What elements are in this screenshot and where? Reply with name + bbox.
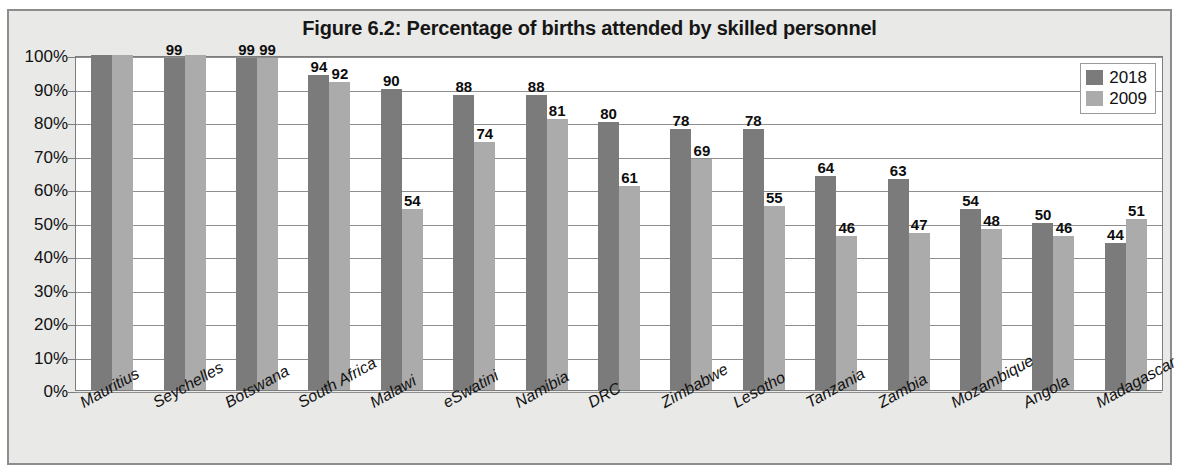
bar-value-label: 44 [1107, 227, 1124, 242]
bar-2018[interactable]: 99 [164, 58, 185, 390]
bar-value-label: 99 [238, 42, 255, 57]
bar-value-label: 48 [983, 213, 1000, 228]
bar-group: 7855 [728, 57, 800, 390]
y-axis-tick [68, 258, 76, 259]
bar-2018[interactable]: 64 [815, 176, 836, 390]
bar-slot: 94 [308, 57, 329, 390]
legend-item-2018: 2018 [1086, 67, 1147, 88]
x-axis-label-cell: Namibia [510, 392, 583, 472]
y-axis-tick-label: 80% [8, 114, 68, 134]
bar-2009[interactable]: 69 [691, 159, 712, 390]
page-title: Figure 6.2: Percentage of births attende… [9, 17, 1170, 40]
x-axis-label-cell: eSwatini [438, 392, 511, 472]
bar-2009[interactable]: 81 [547, 119, 568, 390]
bar-2018[interactable]: 99 [236, 58, 257, 390]
bar-slot: 47 [909, 57, 930, 390]
bar-slot: 50 [1032, 57, 1053, 390]
x-axis-label-cell: Madagascar [1090, 392, 1163, 472]
figure-container: Figure 6.2: Percentage of births attende… [0, 0, 1181, 472]
y-axis-tick [68, 124, 76, 125]
bar-group: 9054 [366, 57, 438, 390]
y-axis-tick [68, 325, 76, 326]
bar-2018[interactable]: 63 [888, 179, 909, 390]
bar-2018[interactable]: 80 [598, 122, 619, 390]
bar-2009[interactable]: 99 [257, 58, 278, 390]
y-axis-tick-label: 40% [8, 248, 68, 268]
bar-value-label: 46 [838, 220, 855, 235]
legend-label-2018: 2018 [1109, 69, 1147, 86]
y-axis-tick [68, 191, 76, 192]
bar-2009[interactable]: 54 [402, 209, 423, 390]
bar-2009[interactable]: 51 [1126, 219, 1147, 390]
x-axis-label-cell: DRC [583, 392, 656, 472]
bar-2009[interactable]: 55 [764, 206, 785, 390]
plot-wrapper: 0%10%20%30%40%50%60%70%80%90%100% 999999… [75, 56, 1163, 391]
legend-swatch-2009-icon [1086, 91, 1103, 106]
bar-slot: 54 [960, 57, 981, 390]
y-axis-tick-label: 10% [8, 349, 68, 369]
y-axis-tick [68, 158, 76, 159]
bar-2018[interactable] [91, 55, 112, 390]
bar-value-label: 92 [332, 66, 349, 81]
legend-label-2009: 2009 [1109, 90, 1147, 107]
bar-slot: 69 [691, 57, 712, 390]
bar-value-label: 51 [1128, 203, 1145, 218]
bar-group: 7869 [655, 57, 727, 390]
x-axis-label-cell: Mauritius [75, 392, 148, 472]
bar-value-label: 50 [1035, 207, 1052, 222]
bar-value-label: 81 [549, 103, 566, 118]
bar-2018[interactable]: 54 [960, 209, 981, 390]
bar-group: 5448 [945, 57, 1017, 390]
bar-2009[interactable]: 61 [619, 186, 640, 390]
y-axis-tick [68, 359, 76, 360]
y-axis-tick [68, 91, 76, 92]
bar-value-label: 55 [766, 190, 783, 205]
bar-2018[interactable]: 88 [526, 95, 547, 390]
bar-slot: 46 [836, 57, 857, 390]
x-axis-label-cell: Mozambique [945, 392, 1018, 472]
x-axis-label-cell: South Africa [293, 392, 366, 472]
bar-2009[interactable] [185, 55, 206, 390]
bar-2018[interactable]: 78 [743, 129, 764, 390]
y-axis-tick-label: 60% [8, 181, 68, 201]
x-axis-label-cell: Seychelles [148, 392, 221, 472]
bar-slot: 74 [474, 57, 495, 390]
bar-group: 6347 [872, 57, 944, 390]
bar-value-label: 54 [404, 193, 421, 208]
bar-2009[interactable]: 74 [474, 142, 495, 390]
bar-value-label: 99 [259, 42, 276, 57]
bar-slot: 54 [402, 57, 423, 390]
x-axis-label-cell: Botswana [220, 392, 293, 472]
bar-group [76, 57, 148, 390]
bar-slot: 99 [257, 57, 278, 390]
bar-2009[interactable]: 48 [981, 229, 1002, 390]
chart-panel: Figure 6.2: Percentage of births attende… [7, 9, 1172, 465]
bar-value-label: 99 [166, 42, 183, 57]
y-axis-tick-label: 100% [8, 47, 68, 67]
bar-2018[interactable]: 90 [381, 89, 402, 391]
bar-2009[interactable] [112, 55, 133, 390]
bar-value-label: 94 [311, 59, 328, 74]
bar-value-label: 54 [962, 193, 979, 208]
chart-legend: 2018 2009 [1080, 63, 1156, 114]
plot-area: 0%10%20%30%40%50%60%70%80%90%100% 999999… [75, 56, 1163, 391]
bar-2009[interactable]: 92 [329, 82, 350, 390]
bar-group: 8061 [583, 57, 655, 390]
y-axis-tick [68, 225, 76, 226]
y-axis-tick-label: 70% [8, 148, 68, 168]
bar-slot: 80 [598, 57, 619, 390]
bar-2018[interactable]: 78 [670, 129, 691, 390]
bar-slot [91, 57, 112, 390]
bar-value-label: 78 [745, 113, 762, 128]
bar-2009[interactable]: 46 [1053, 236, 1074, 390]
x-axis-label-cell: Tanzania [800, 392, 873, 472]
bar-2018[interactable]: 88 [453, 95, 474, 390]
bar-slot: 64 [815, 57, 836, 390]
bar-2018[interactable]: 94 [308, 75, 329, 390]
bar-2018[interactable]: 44 [1105, 243, 1126, 390]
x-axis-label-cell: Zimbabwe [655, 392, 728, 472]
bar-value-label: 90 [383, 73, 400, 88]
bar-value-label: 64 [817, 160, 834, 175]
bar-2009[interactable]: 47 [909, 233, 930, 390]
bar-value-label: 88 [455, 79, 472, 94]
